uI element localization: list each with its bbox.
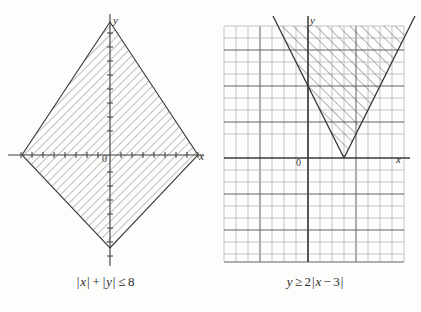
- caption-plus: +: [90, 274, 102, 289]
- y-axis-label: y: [113, 14, 118, 26]
- caption-right: y≥2|x−3|: [210, 274, 421, 290]
- caption-var-x: x: [315, 274, 321, 289]
- caption-left: |x|+|y|≤8: [0, 274, 211, 290]
- caption-var-y: y: [287, 274, 293, 289]
- diamond-inequality-graph: [0, 0, 211, 270]
- figure-left-panel: x y 0 |x|+|y|≤8: [0, 0, 211, 312]
- caption-rhs: 8: [128, 274, 135, 289]
- v-wedge-shaded-region: [273, 16, 415, 158]
- caption-relation: ≤: [116, 274, 128, 289]
- y-axis-label: y: [310, 14, 315, 26]
- caption-bar: |: [340, 274, 344, 289]
- figure-page: x y 0 |x|+|y|≤8: [0, 0, 421, 312]
- caption-relation: ≥: [293, 274, 305, 289]
- caption-minus: −: [322, 274, 334, 289]
- x-axis-label: x: [396, 153, 401, 165]
- absolute-value-inequality-graph: [210, 0, 421, 270]
- origin-label: 0: [102, 153, 107, 164]
- origin-label: 0: [296, 157, 301, 168]
- x-axis-label: x: [199, 150, 204, 162]
- figure-right-panel: x y 0 y≥2|x−3|: [210, 0, 421, 312]
